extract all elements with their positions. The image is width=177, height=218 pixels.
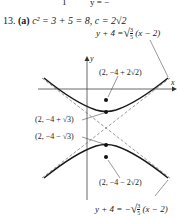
lower-vertex-leader <box>82 137 104 144</box>
lower-vertex-label: (2, −4 − √3) <box>35 132 74 141</box>
x-axis-arrow-icon <box>172 87 177 92</box>
lower-focus-label: (2, −4 − 2√2) <box>99 178 142 187</box>
upper-focus-leader <box>108 76 118 97</box>
upper-focus-point <box>104 98 108 102</box>
upper-vertex-leader <box>82 113 104 120</box>
upper-vertex-point <box>104 110 108 114</box>
upper-focus-label: (2, −4 + 2√2) <box>99 68 142 77</box>
lower-asymptote-leader <box>155 180 168 196</box>
upper-hyperbola-branch <box>44 78 168 112</box>
y-axis-label: y <box>90 54 94 63</box>
lower-vertex-point <box>104 143 108 147</box>
y-axis-arrow-icon <box>85 56 90 61</box>
hyperbola-graph <box>0 0 177 218</box>
upper-vertex-label: (2, −4 + √3) <box>35 115 74 124</box>
x-axis-label: x <box>171 78 175 87</box>
upper-asymptote-leader <box>150 40 168 77</box>
lower-focus-point <box>104 155 108 159</box>
lower-hyperbola-branch <box>44 145 168 179</box>
lower-focus-leader <box>108 160 120 178</box>
